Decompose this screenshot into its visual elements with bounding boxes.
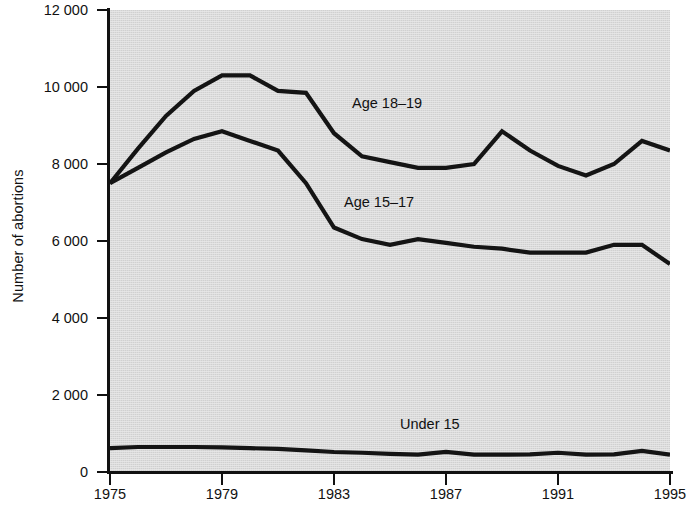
- y-tick-mark: [97, 9, 108, 11]
- x-tick-label: 1975: [75, 487, 145, 502]
- x-tick-label: 1983: [299, 487, 369, 502]
- series-line-under-15: [110, 447, 670, 455]
- y-tick-mark: [97, 394, 108, 396]
- x-tick-mark: [557, 474, 559, 485]
- series-label: Under 15: [400, 416, 460, 432]
- x-tick-mark: [109, 474, 111, 485]
- x-tick-label: 1995: [635, 487, 691, 502]
- y-tick-mark: [97, 163, 108, 165]
- y-tick-mark: [97, 317, 108, 319]
- x-tick-label: 1991: [523, 487, 593, 502]
- series-line-age-18-19: [110, 75, 670, 183]
- y-tick-mark: [97, 240, 108, 242]
- series-label: Age 15–17: [344, 194, 414, 210]
- x-tick-mark: [333, 474, 335, 485]
- series-lines-group: [110, 10, 670, 472]
- x-tick-label: 1987: [411, 487, 481, 502]
- x-tick-mark: [669, 474, 671, 485]
- x-axis-line: [107, 471, 673, 474]
- x-tick-mark: [445, 474, 447, 485]
- x-tick-mark: [221, 474, 223, 485]
- y-tick-mark: [97, 86, 108, 88]
- series-label: Age 18–19: [352, 95, 422, 111]
- plot-area: [110, 10, 670, 472]
- x-tick-label: 1979: [187, 487, 257, 502]
- y-tick-mark: [97, 471, 108, 473]
